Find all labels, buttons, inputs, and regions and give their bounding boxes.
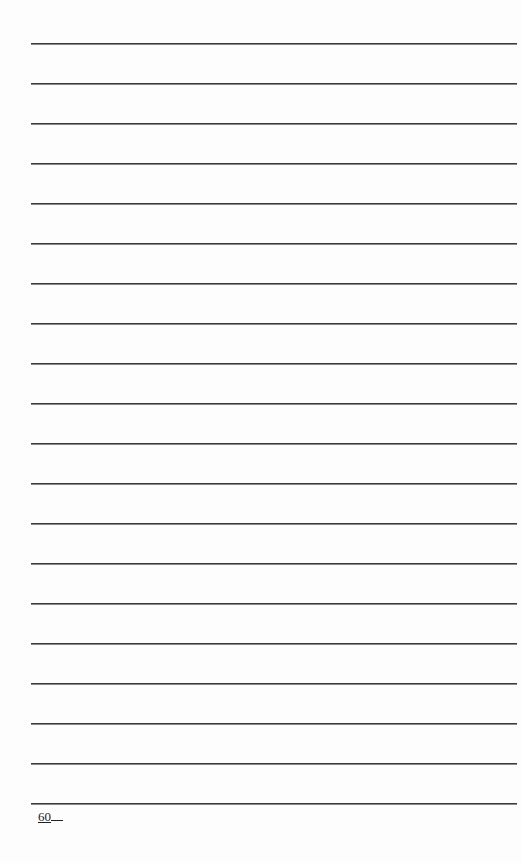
ruled-line <box>31 803 517 805</box>
ruled-line <box>31 763 517 765</box>
ruled-line <box>31 403 517 405</box>
ruled-line <box>31 443 517 445</box>
ruled-line <box>31 523 517 525</box>
ruled-line <box>31 323 517 325</box>
ruled-line <box>31 283 517 285</box>
ruled-line <box>31 163 517 165</box>
ruled-line <box>31 643 517 645</box>
ruled-line <box>31 243 517 245</box>
ruled-line <box>31 43 517 45</box>
ruled-line <box>31 723 517 725</box>
ruled-line <box>31 683 517 685</box>
ruled-line <box>31 563 517 565</box>
ruled-line <box>31 483 517 485</box>
page-number-text: 60 <box>38 809 51 824</box>
ruled-line <box>31 363 517 365</box>
ruled-line <box>31 203 517 205</box>
ruled-line <box>31 603 517 605</box>
ruled-line <box>31 83 517 85</box>
ruled-line <box>31 123 517 125</box>
page-number: 60 <box>38 808 63 825</box>
lined-page <box>0 0 522 863</box>
page-number-underline <box>51 808 63 821</box>
